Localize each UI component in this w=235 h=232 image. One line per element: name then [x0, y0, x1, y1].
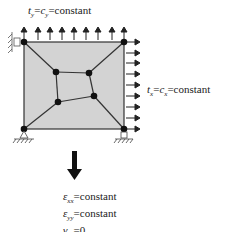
constant-text: constant	[55, 4, 92, 16]
right-traction-label: tx=cx=constant	[147, 83, 210, 100]
shear-strain-xy: γxy=0	[63, 224, 116, 232]
strain-result: εxx=constant εyy=constant γxy=0	[63, 190, 116, 232]
strain-xx: εxx=constant	[63, 190, 116, 207]
right-traction-arrows	[126, 39, 140, 132]
strain-yy: εyy=constant	[63, 207, 116, 224]
pin-support-icon	[13, 131, 34, 143]
roller-support-icon	[114, 132, 133, 143]
left-roller-support-icon	[8, 32, 20, 53]
down-arrow-icon	[67, 151, 82, 180]
constant-text: constant	[174, 83, 211, 95]
mesh-diagram	[0, 0, 235, 232]
top-traction-label: ty=cy=constant	[28, 4, 91, 21]
top-traction-arrows	[21, 27, 127, 40]
